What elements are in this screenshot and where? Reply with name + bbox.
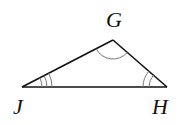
triangle-diagram: G J H xyxy=(0,0,186,125)
vertex-label-j: J xyxy=(13,96,23,118)
vertex-label-g: G xyxy=(106,9,122,31)
angle-g-marks xyxy=(96,49,127,59)
vertex-label-h: H xyxy=(152,96,168,118)
side-gh xyxy=(113,40,167,87)
side-jg xyxy=(22,40,113,87)
